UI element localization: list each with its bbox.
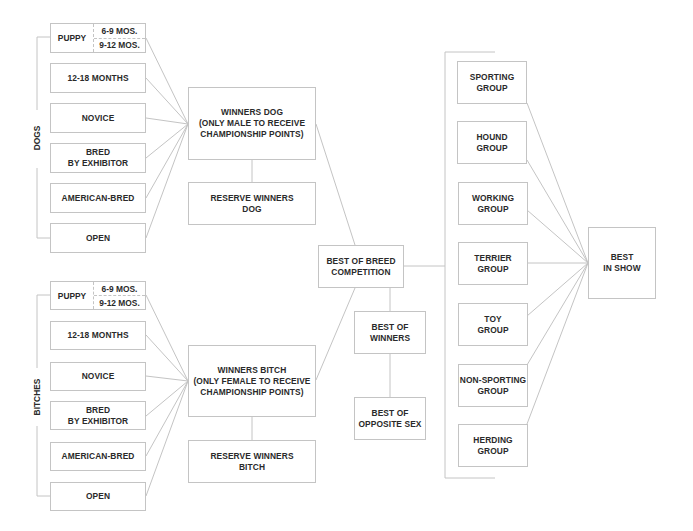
puppy-label: PUPPY [51, 24, 94, 52]
group-terrier: TERRIER GROUP [458, 242, 528, 285]
bitch-class-novice: NOVICE [50, 362, 146, 391]
bitch-class-puppy: PUPPY 6-9 MOS. 9-12 MOS. [50, 281, 146, 310]
winners-bitch: WINNERS BITCH (ONLY FEMALE TO RECEIVE CH… [188, 345, 316, 417]
dog-class-bred-by-exhibitor: BRED BY EXHIBITOR [50, 143, 146, 173]
puppy-label: PUPPY [51, 282, 94, 309]
puppy-6-9-months: 6-9 MOS. [94, 282, 145, 296]
group-sporting: SPORTING GROUP [457, 61, 527, 104]
dog-class-12-18-months: 12-18 MONTHS [50, 63, 146, 93]
best-of-breed-competition: BEST OF BREED COMPETITION [318, 245, 404, 288]
best-of-winners: BEST OF WINNERS [354, 311, 426, 354]
winners-dog: WINNERS DOG (ONLY MALE TO RECEIVE CHAMPI… [188, 87, 316, 160]
group-working: WORKING GROUP [458, 182, 528, 225]
reserve-winners-dog: RESERVE WINNERS DOG [188, 182, 316, 225]
group-herding: HERDING GROUP [458, 424, 528, 467]
group-non-sporting: NON-SPORTING GROUP [458, 364, 528, 407]
dogs-label: DOGS [32, 108, 42, 168]
puppy-9-12-months: 9-12 MOS. [94, 39, 145, 53]
bitch-class-open: OPEN [50, 482, 146, 511]
dog-class-novice: NOVICE [50, 103, 146, 133]
bitches-label: BITCHES [32, 367, 42, 427]
best-of-opposite-sex: BEST OF OPPOSITE SEX [354, 397, 426, 440]
dog-class-puppy: PUPPY 6-9 MOS. 9-12 MOS. [50, 23, 146, 53]
group-toy: TOY GROUP [458, 303, 528, 346]
bitch-class-bred-by-exhibitor: BRED BY EXHIBITOR [50, 401, 146, 430]
bitch-class-american-bred: AMERICAN-BRED [50, 442, 146, 471]
best-in-show: BEST IN SHOW [588, 227, 656, 299]
dog-class-american-bred: AMERICAN-BRED [50, 183, 146, 213]
puppy-9-12-months: 9-12 MOS. [94, 296, 145, 309]
group-hound: HOUND GROUP [457, 121, 527, 164]
reserve-winners-bitch: RESERVE WINNERS BITCH [188, 440, 316, 483]
puppy-6-9-months: 6-9 MOS. [94, 24, 145, 39]
dog-class-open: OPEN [50, 223, 146, 253]
bitch-class-12-18-months: 12-18 MONTHS [50, 321, 146, 350]
